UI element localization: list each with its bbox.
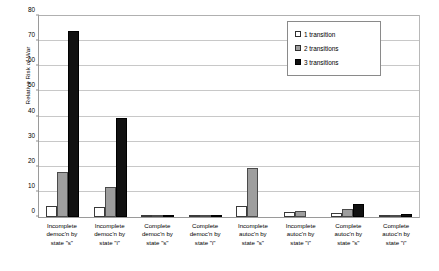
y-tick-label: 40 [28,106,35,113]
x-axis-label: Incompletedemoc'n bystate "i" [86,222,134,247]
y-tick-label: 70 [28,31,35,38]
x-axis-label: Completeautoc'n bystate "i" [372,222,420,247]
legend-label-1-transition: 1 transition [304,31,335,38]
bar[interactable] [390,215,401,217]
bar[interactable] [163,215,174,217]
bar[interactable] [152,215,163,218]
legend-swatch-2-transitions [295,45,301,51]
y-tick-label: 30 [28,131,35,138]
bar[interactable] [331,213,342,217]
legend-item[interactable]: 1 transition [295,27,374,41]
bar[interactable] [46,206,57,217]
bar[interactable] [105,187,116,217]
bar-group [182,16,230,217]
bar[interactable] [94,207,105,217]
x-axis-label: Completedemoc'n bystate "i" [181,222,229,247]
x-axis-label: Incompleteautoc'n bystate "s" [229,222,277,247]
bar[interactable] [200,215,211,217]
bar[interactable] [295,211,306,217]
legend-item[interactable]: 2 transitions [295,41,374,55]
bar[interactable] [247,168,258,217]
bar[interactable] [379,215,390,217]
chart-legend: 1 transition 2 transitions 3 transitions [287,21,381,76]
bar[interactable] [342,209,353,217]
bar-group [134,16,182,217]
y-axis-title: Relative Risk of War [24,1,31,151]
bar[interactable] [211,215,222,217]
x-axis-label: Completeautoc'n bystate "s" [325,222,373,247]
bar[interactable] [189,215,200,217]
bar[interactable] [236,206,247,217]
bar-group [229,16,277,217]
legend-swatch-1-transition [295,31,301,37]
y-tick-label: 80 [28,6,35,13]
bar[interactable] [401,214,412,217]
bar[interactable] [353,204,364,217]
y-tick-label: 50 [28,81,35,88]
bar-group [39,16,87,217]
y-tick-label: 60 [28,56,35,63]
x-axis-label: Completedemoc'n bystate "s" [134,222,182,247]
y-tick-label: 20 [28,156,35,163]
y-tick-label: 0 [31,207,35,214]
bar[interactable] [141,215,152,217]
bar[interactable] [284,212,295,217]
bar-chart: Relative Risk of War 01020304050607080 I… [0,0,439,271]
bar-group [87,16,135,217]
legend-label-2-transitions: 2 transitions [304,45,338,52]
y-tick-label: 10 [28,181,35,188]
legend-item[interactable]: 3 transitions [295,55,374,69]
bar[interactable] [57,172,68,217]
x-axis-label: Incompleteautoc'n bystate "i" [277,222,325,247]
legend-label-3-transitions: 3 transitions [304,59,338,66]
x-axis-label: Incompletedemoc'n bystate "s" [38,222,86,247]
legend-swatch-3-transitions [295,59,301,65]
x-axis-labels: Incompletedemoc'n bystate "s"Incompleted… [38,222,420,247]
bar[interactable] [68,31,79,217]
bar[interactable] [116,118,127,217]
